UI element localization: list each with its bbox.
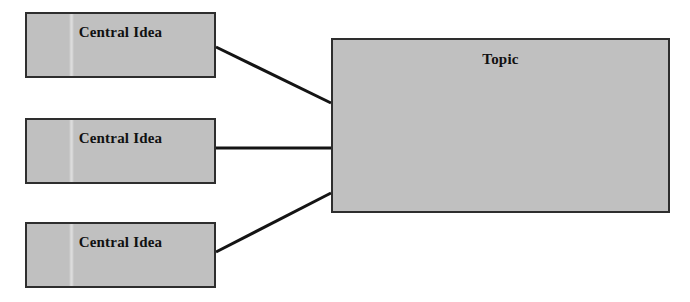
central-idea-box-2[interactable]: Central Idea	[25, 118, 216, 184]
central-idea-box-1[interactable]: Central Idea	[25, 12, 216, 78]
central-idea-label-2: Central Idea	[27, 129, 214, 147]
topic-label: Topic	[333, 50, 668, 68]
connector-idea-3-to-topic	[216, 193, 331, 252]
topic-box[interactable]: Topic	[331, 38, 670, 213]
central-idea-label-1: Central Idea	[27, 23, 214, 41]
central-idea-label-3: Central Idea	[27, 233, 214, 251]
central-idea-box-3[interactable]: Central Idea	[25, 222, 216, 288]
connector-idea-1-to-topic	[216, 47, 331, 103]
diagram-canvas: Central Idea Central Idea Central Idea T…	[0, 0, 690, 302]
